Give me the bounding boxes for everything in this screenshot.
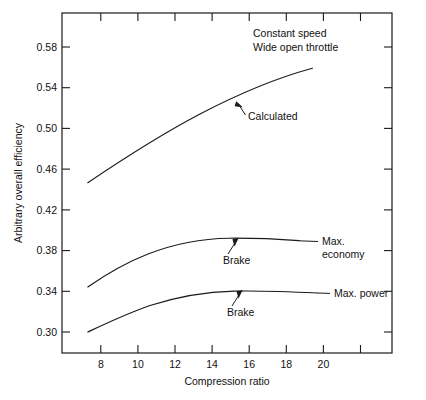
y-tick-label: 0.46	[37, 163, 58, 175]
y-tick-label: 0.38	[37, 244, 58, 256]
x-axis-ticks-top	[101, 13, 361, 21]
curve-calculated	[88, 68, 313, 183]
series-label-brake-power: Brake	[227, 306, 255, 318]
note-line-wide-open-throttle: Wide open throttle	[253, 41, 338, 53]
annotation-max-power: Max. power	[318, 287, 389, 299]
x-axis-tick-labels: 8 10 12 14 16 18 20	[98, 358, 330, 370]
y-tick-label: 0.30	[37, 326, 58, 338]
annotation-brake-power: Brake	[227, 290, 255, 318]
x-tick-label: 16	[243, 358, 255, 370]
arrow-head-icon	[235, 101, 243, 107]
series-label-max-power: Max. power	[334, 287, 389, 299]
annotation-max-economy: Max. economy	[299, 235, 365, 260]
y-axis-title: Arbitrary overall efficiency	[12, 122, 24, 243]
series-label-max-economy-line1: Max.	[322, 235, 345, 247]
y-axis-tick-labels: 0.58 0.54 0.50 0.46 0.42 0.38 0.34 0.30	[37, 41, 58, 338]
y-tick-label: 0.34	[37, 285, 58, 297]
y-tick-label: 0.54	[37, 81, 58, 93]
x-tick-label: 18	[280, 358, 292, 370]
x-tick-label: 8	[98, 358, 104, 370]
chart-figure: 0.58 0.54 0.50 0.46 0.42 0.38 0.34 0.30	[0, 0, 426, 400]
note-line-constant-speed: Constant speed	[253, 27, 327, 39]
chart-note: Constant speed Wide open throttle	[253, 27, 338, 53]
chart-canvas: 0.58 0.54 0.50 0.46 0.42 0.38 0.34 0.30	[0, 0, 426, 400]
x-tick-label: 12	[169, 358, 181, 370]
y-tick-label: 0.50	[37, 122, 58, 134]
x-axis-title: Compression ratio	[184, 375, 269, 387]
x-tick-label: 14	[206, 358, 218, 370]
x-tick-label: 10	[132, 358, 144, 370]
y-tick-label: 0.42	[37, 204, 58, 216]
series-label-brake-economy: Brake	[223, 254, 251, 266]
y-axis-ticks	[62, 47, 70, 332]
plot-frame	[62, 13, 392, 353]
x-tick-label: 20	[318, 358, 330, 370]
y-tick-label: 0.58	[37, 41, 58, 53]
series-label-calculated: Calculated	[248, 110, 298, 122]
curve-max-power	[88, 291, 318, 332]
annotation-calculated: Calculated	[235, 101, 298, 122]
annotation-brake-economy: Brake	[223, 238, 251, 266]
curve-max-economy	[88, 238, 299, 287]
series-label-max-economy-line2: economy	[322, 248, 365, 260]
x-axis-ticks	[101, 345, 361, 353]
